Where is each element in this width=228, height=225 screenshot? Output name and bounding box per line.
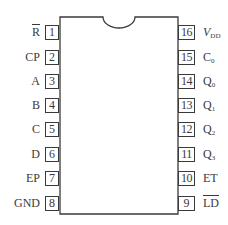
pin-5: 5 [45,122,59,137]
pin-13-label: Q1 [203,98,215,117]
pin-5-number: 5 [49,122,55,136]
pin-15-label-sub: 0 [211,57,215,65]
pin-7: 7 [45,171,59,186]
pin-2-label-text: CP [25,50,40,64]
pin-11-number: 11 [181,147,192,161]
pin-1: 1 [45,25,59,40]
pin-4-number: 4 [49,98,55,112]
pin-1-label: R [2,25,40,40]
pin-13-label-sub: 1 [212,105,216,113]
pin-15-label: C0 [203,50,215,69]
pin-4-label-text: B [32,98,40,112]
pin-11-label-text: Q [203,147,212,161]
pin-16-label-sub: DD [210,32,220,40]
pin-13-label-text: Q [203,98,212,112]
pin-14-number: 14 [181,74,192,88]
pin-8-label: GND [2,196,40,211]
pin-2-number: 2 [49,50,55,64]
pin-11-label-sub: 3 [212,154,216,162]
pin-16-number: 16 [181,25,192,39]
pin-14-label: Q0 [203,74,215,93]
pin-7-label-text: EP [26,171,40,185]
pin-2: 2 [45,50,59,65]
pin-8-number: 8 [49,196,55,210]
pin-11: 11 [178,147,195,162]
pin-12-label: Q2 [203,122,215,141]
pin-5-label: C [2,122,40,137]
pin-6-label: D [2,147,40,162]
pin-4: 4 [45,98,59,113]
pin-9-label-text: LD [203,196,219,210]
pin-6: 6 [45,147,59,162]
pin-14-label-sub: 0 [212,81,216,89]
pin-8-label-text: GND [14,196,40,210]
pin-6-label-text: D [31,147,40,161]
pin-12: 12 [178,122,195,137]
pin-14-label-text: Q [203,74,212,88]
pin-16: 16 [178,25,195,40]
pin-9-number: 9 [184,196,190,210]
pin-6-number: 6 [49,147,55,161]
pin-3-label: A [2,74,40,89]
pin-4-label: B [2,98,40,113]
chip-body [60,17,178,214]
pin-3-number: 3 [49,74,55,88]
pin-1-label-text: R [32,25,40,39]
pin-13-number: 13 [181,98,192,112]
pin-11-label: Q3 [203,147,215,166]
pin-12-number: 12 [181,122,192,136]
pin-15-label-text: C [203,50,211,64]
pin-16-label: VDD [203,25,220,44]
pin-14: 14 [178,74,195,89]
pin-10-label: ET [203,171,218,186]
pin-12-label-sub: 2 [212,129,216,137]
pin-15-number: 15 [181,50,192,64]
pin-7-number: 7 [49,171,55,185]
pin-5-label-text: C [32,122,40,136]
pin-9-label: LD [203,196,219,211]
pin-1-number: 1 [49,25,55,39]
pin-10-number: 10 [181,171,192,185]
pin-15: 15 [178,50,195,65]
pin-2-label: CP [2,50,40,65]
pin-8: 8 [45,196,59,211]
pin-10-label-text: ET [203,171,218,185]
pin-9: 9 [178,196,195,211]
pin-13: 13 [178,98,195,113]
pin-3: 3 [45,74,59,89]
pin-12-label-text: Q [203,122,212,136]
pin-10: 10 [178,171,195,186]
pin-3-label-text: A [31,74,40,88]
pin-7-label: EP [2,171,40,186]
